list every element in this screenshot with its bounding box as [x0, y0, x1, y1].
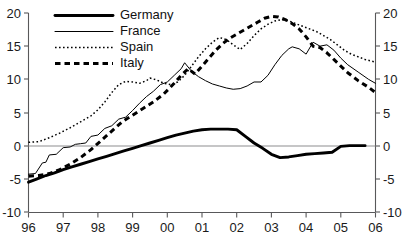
x-tick-label-06: 06: [368, 220, 382, 235]
y-axis-right-ticks: [376, 13, 381, 212]
x-tick-label-99: 99: [125, 220, 139, 235]
series-line-spain: [29, 20, 376, 143]
y-tick-label-right-m10: -10: [383, 205, 402, 220]
y-tick-label-right-10: 10: [383, 72, 397, 87]
y-tick-label-right-0: 0: [383, 139, 390, 154]
legend-label-germany: Germany: [120, 7, 174, 22]
series-group: [29, 16, 376, 182]
x-tick-label-01: 01: [195, 220, 209, 235]
y-axis-left: 20 15 10 5 0 -5 -10: [2, 6, 28, 220]
y-tick-label-left-m10: -10: [2, 205, 21, 220]
y-tick-label-left-20: 20: [7, 6, 21, 21]
legend-label-italy: Italy: [120, 55, 144, 70]
y-tick-label-right-20: 20: [383, 6, 397, 21]
y-tick-label-left-10: 10: [7, 72, 21, 87]
legend: Germany France Spain Italy: [55, 7, 174, 70]
line-chart: 20 15 10 5 0 -5 -10 20 15 10 5 0: [0, 0, 408, 246]
x-axis-ticks: [29, 213, 376, 218]
y-tick-label-right-15: 15: [383, 39, 397, 54]
series-line-germany: [29, 129, 366, 182]
chart-container: 20 15 10 5 0 -5 -10 20 15 10 5 0: [0, 0, 408, 246]
x-tick-label-98: 98: [91, 220, 105, 235]
y-tick-label-left-5: 5: [14, 106, 21, 121]
y-tick-label-left-0: 0: [14, 139, 21, 154]
x-tick-label-04: 04: [299, 220, 313, 235]
y-axis-right: 20 15 10 5 0 -5 -10: [376, 6, 402, 220]
x-tick-label-05: 05: [334, 220, 348, 235]
x-tick-label-96: 96: [21, 220, 35, 235]
y-tick-label-right-5: 5: [383, 106, 390, 121]
y-tick-label-left-m5: -5: [9, 172, 21, 187]
legend-label-france: France: [120, 23, 160, 38]
x-axis: 9697989900010203040506: [21, 213, 382, 236]
y-tick-label-right-m5: -5: [383, 172, 395, 187]
x-tick-label-00: 00: [160, 220, 174, 235]
x-axis-tick-labels: 9697989900010203040506: [21, 220, 382, 235]
x-tick-label-97: 97: [56, 220, 70, 235]
legend-label-spain: Spain: [120, 39, 153, 54]
y-tick-label-left-15: 15: [7, 39, 21, 54]
x-tick-label-03: 03: [264, 220, 278, 235]
x-tick-label-02: 02: [229, 220, 243, 235]
